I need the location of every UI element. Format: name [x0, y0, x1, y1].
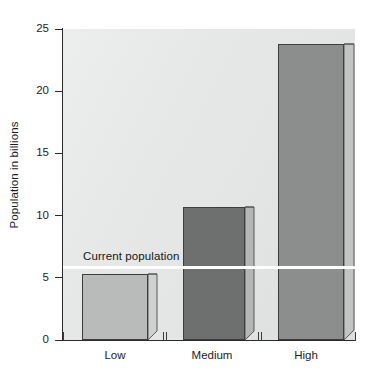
x-tick-mark — [261, 332, 262, 341]
x-axis-label-medium: Medium — [192, 349, 233, 361]
bar-medium — [183, 207, 254, 341]
current-population-line — [63, 266, 356, 269]
population-bar-chart: Population in billions 2520151050 Curren… — [0, 0, 370, 389]
y-tick-mark — [55, 215, 63, 216]
y-tick-label: 15 — [15, 147, 49, 159]
y-tick-mark — [55, 277, 63, 278]
y-tick-label: 5 — [15, 272, 49, 284]
current-population-label: Current population — [83, 250, 179, 262]
bar-low — [82, 274, 157, 341]
y-axis-title: Population in billions — [8, 75, 20, 275]
x-tick-mark — [163, 332, 164, 341]
x-tick-mark — [355, 332, 356, 341]
bar-high — [278, 44, 354, 341]
x-tick-mark — [258, 332, 259, 341]
x-tick-mark — [166, 332, 167, 341]
bar-medium-front — [183, 207, 245, 340]
x-axis-label-low: Low — [104, 349, 125, 361]
x-tick-mark — [63, 332, 64, 341]
y-tick-mark — [55, 91, 63, 92]
y-tick-label: 25 — [15, 23, 49, 35]
y-tick-label: 0 — [15, 334, 49, 346]
y-tick-mark — [55, 153, 63, 154]
y-tick-label: 10 — [15, 210, 49, 222]
bar-high-front — [278, 44, 344, 340]
y-tick-mark — [55, 340, 63, 341]
x-axis-label-high: High — [294, 349, 318, 361]
y-tick-mark — [55, 29, 63, 30]
bar-low-front — [82, 274, 148, 340]
y-tick-label: 20 — [15, 85, 49, 97]
y-axis-line — [62, 28, 63, 341]
